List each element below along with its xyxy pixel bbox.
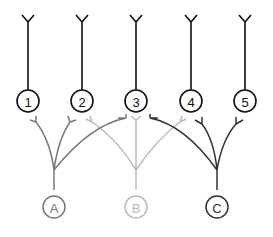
- node-label: A: [50, 201, 59, 216]
- node-label: B: [132, 201, 141, 216]
- node-label: 2: [78, 95, 85, 110]
- top-stems: [22, 15, 251, 90]
- node-c[interactable]: C: [206, 196, 228, 218]
- node-label: 4: [187, 95, 194, 110]
- node-2[interactable]: 2: [71, 90, 93, 112]
- node-label: C: [212, 201, 221, 216]
- top-nodes: 1 2 3 4 5: [17, 90, 256, 112]
- bottom-nodes: A B C: [43, 196, 228, 218]
- node-a[interactable]: A: [43, 196, 65, 218]
- node-3[interactable]: 3: [125, 90, 147, 112]
- antenna-icon: [185, 15, 197, 90]
- node-label: 3: [132, 95, 139, 110]
- node-4[interactable]: 4: [180, 90, 202, 112]
- antenna-icon: [130, 15, 142, 90]
- node-5[interactable]: 5: [234, 90, 256, 112]
- network-diagram: 1 2 3 4 5 A B C: [0, 0, 273, 237]
- antenna-icon: [76, 15, 88, 90]
- node-1[interactable]: 1: [17, 90, 39, 112]
- branches-c: [150, 114, 243, 190]
- branches-a: [30, 114, 126, 190]
- node-label: 1: [24, 95, 31, 110]
- node-b[interactable]: B: [125, 196, 147, 218]
- antenna-icon: [22, 15, 34, 90]
- node-label: 5: [241, 95, 248, 110]
- antenna-icon: [239, 15, 251, 90]
